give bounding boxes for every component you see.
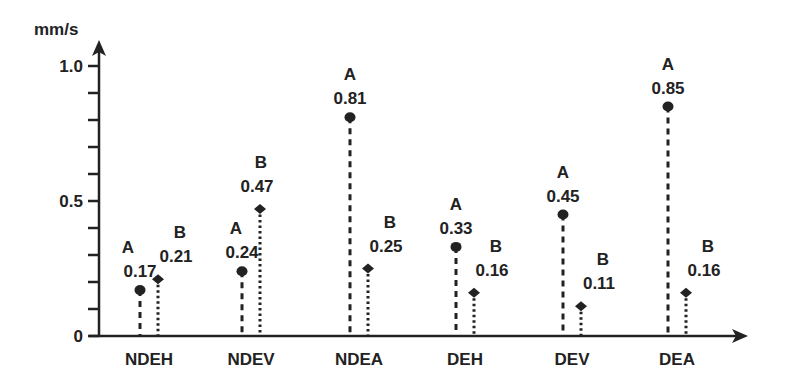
series-label-a: A [122, 238, 134, 257]
value-label-a: 0.85 [651, 79, 684, 98]
y-tick-label: 0.5 [59, 192, 83, 211]
category-group: 0.24A0.47B [225, 153, 273, 336]
category-group: 0.81A0.25B [333, 65, 402, 336]
y-tick-label: 1.0 [59, 57, 83, 76]
value-label-b: 0.25 [369, 237, 402, 256]
marker-a-circle-icon [663, 102, 674, 112]
marker-a-circle-icon [237, 266, 248, 276]
x-category-label: NDEV [227, 350, 275, 369]
series-label-a: A [450, 195, 462, 214]
x-category-label: DEV [555, 350, 591, 369]
marker-a-circle-icon [451, 242, 462, 252]
marker-b-diamond-icon [468, 288, 480, 298]
x-category-label: DEA [659, 350, 695, 369]
x-category-labels: NDEHNDEVNDEADEHDEVDEA [125, 350, 695, 369]
value-label-b: 0.21 [159, 247, 192, 266]
category-group: 0.17A0.21B [122, 223, 193, 336]
series-label-b: B [597, 250, 609, 269]
series-label-b: B [384, 213, 396, 232]
value-label-b: 0.47 [240, 177, 273, 196]
value-label-a: 0.33 [439, 219, 472, 238]
category-group: 0.33A0.16B [439, 195, 508, 336]
series-label-b: B [490, 237, 502, 256]
series-label-a: A [344, 65, 356, 84]
category-group: 0.45A0.11B [546, 163, 615, 337]
value-label-a: 0.17 [123, 262, 156, 281]
value-label-b: 0.16 [475, 261, 508, 280]
value-label-a: 0.45 [546, 187, 579, 206]
series-label-b: B [174, 223, 186, 242]
marker-b-diamond-icon [362, 264, 374, 274]
series-label-b: B [702, 237, 714, 256]
series-label-a: A [230, 219, 242, 238]
y-ticks: 00.51.0 [59, 57, 99, 346]
axes [89, 40, 748, 343]
value-label-b: 0.16 [687, 261, 720, 280]
marker-b-diamond-icon [254, 204, 266, 214]
x-category-label: NDEH [125, 350, 173, 369]
value-label-b: 0.11 [583, 274, 615, 293]
y-tick-label: 0 [74, 327, 83, 346]
marker-b-diamond-icon [680, 288, 692, 298]
marker-a-circle-icon [558, 210, 569, 220]
series-label-a: A [662, 55, 674, 74]
y-axis-label: mm/s [34, 20, 78, 39]
category-group: 0.85A0.16B [651, 55, 720, 337]
value-label-a: 0.81 [333, 89, 366, 108]
series-label-b: B [255, 153, 267, 172]
data-stems: 0.17A0.21B0.24A0.47B0.81A0.25B0.33A0.16B… [122, 55, 721, 337]
marker-b-diamond-icon [575, 301, 587, 311]
stem-chart: 00.51.0 mm/s NDEHNDEVNDEADEHDEVDEA 0.17A… [0, 0, 788, 388]
marker-a-circle-icon [345, 112, 356, 122]
value-label-a: 0.24 [225, 243, 259, 262]
marker-a-circle-icon [135, 285, 146, 295]
x-category-label: NDEA [335, 350, 383, 369]
x-category-label: DEH [447, 350, 483, 369]
series-label-a: A [557, 163, 569, 182]
